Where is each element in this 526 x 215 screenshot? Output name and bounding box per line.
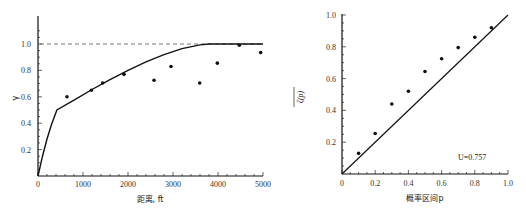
- data-point: [259, 51, 263, 55]
- y-tick-label: 1.0: [21, 40, 31, 49]
- data-point: [357, 152, 361, 156]
- data-point: [152, 79, 156, 83]
- observed-points: [65, 44, 262, 99]
- x-tick-label: 0.2: [370, 179, 380, 188]
- left-axis-ticks: [38, 31, 263, 176]
- observed-points-right: [357, 26, 493, 155]
- x-tick-label: 1.0: [503, 179, 513, 188]
- left-y-axis-title: γ: [11, 95, 20, 100]
- y-tick-label: 0.2: [326, 138, 336, 147]
- x-tick-label: 4000: [210, 180, 226, 189]
- right-y-tick-labels: 0.20.40.60.81.0: [326, 11, 336, 147]
- data-point: [122, 73, 126, 77]
- x-tick-label: 0.8: [470, 179, 480, 188]
- data-point: [490, 26, 494, 30]
- data-point: [198, 81, 202, 85]
- left-x-tick-labels: 010002000300040005000: [36, 180, 271, 189]
- right-x-tick-labels: 00.20.40.60.81.0: [340, 179, 513, 188]
- data-point: [373, 132, 377, 136]
- left-chart: 0.20.40.60.81.0 010002000300040005000 γ …: [11, 16, 271, 204]
- right-chart: 0.20.40.60.81.0 00.20.40.60.81.0 ζ(p) 概率…: [294, 11, 513, 203]
- data-point: [101, 81, 105, 85]
- x-tick-label: 5000: [255, 180, 271, 189]
- data-point: [456, 46, 460, 50]
- data-point: [169, 65, 173, 69]
- data-point: [216, 61, 220, 65]
- x-tick-label: 0.6: [437, 179, 447, 188]
- y-tick-label: 1.0: [326, 11, 336, 20]
- right-x-axis-title: 概率区间p: [406, 193, 443, 203]
- left-y-tick-labels: 0.20.40.60.81.0: [21, 40, 31, 155]
- right-y-axis-title: ζ(p): [294, 87, 305, 107]
- y-tick-label: 0.4: [326, 106, 336, 115]
- y-tick-label: 0.4: [21, 119, 31, 128]
- data-point: [473, 35, 477, 39]
- zeta-p-label: ζ(p): [296, 90, 305, 103]
- figure: 0.20.40.60.81.0 010002000300040005000 γ …: [0, 0, 526, 215]
- x-tick-label: 2000: [120, 180, 136, 189]
- y-tick-label: 0.2: [21, 146, 31, 155]
- y-tick-label: 0.8: [326, 43, 336, 52]
- y-tick-label: 0.6: [21, 93, 31, 102]
- data-point: [407, 90, 411, 94]
- y-tick-label: 0.6: [326, 75, 336, 84]
- one-to-one-line: [342, 15, 508, 174]
- x-tick-label: 0: [36, 180, 40, 189]
- x-tick-label: 0.4: [403, 179, 413, 188]
- y-tick-label: 0.8: [21, 66, 31, 75]
- data-point: [90, 88, 94, 92]
- data-point: [238, 44, 242, 48]
- x-tick-label: 0: [340, 179, 344, 188]
- x-tick-label: 3000: [165, 180, 181, 189]
- x-tick-label: 1000: [75, 180, 91, 189]
- u-statistic-annotation: U=0.757: [458, 153, 486, 162]
- data-point: [390, 102, 394, 106]
- model-curve: [38, 44, 263, 176]
- data-point: [423, 70, 427, 74]
- left-x-axis-title: 距离, ft: [137, 194, 164, 204]
- data-point: [65, 95, 69, 99]
- data-point: [440, 57, 444, 61]
